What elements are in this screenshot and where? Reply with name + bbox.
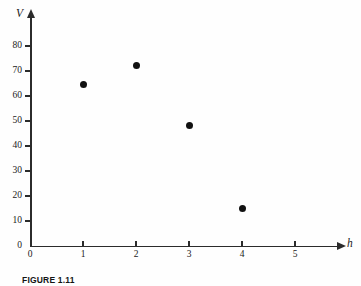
x-tick-mark (241, 241, 242, 247)
x-axis-label: h (347, 238, 353, 250)
scatter-plot: V h 01020304050607080 012345 (0, 0, 361, 270)
x-tick-label: 3 (181, 250, 197, 260)
y-tick-mark (25, 45, 31, 46)
x-tick-mark (82, 241, 83, 247)
y-tick-label: 0 (0, 241, 22, 251)
figure-caption: FIGURE 1.11 (22, 275, 75, 286)
y-axis-arrow-icon (27, 9, 35, 18)
data-point (239, 205, 246, 212)
data-point (133, 62, 140, 69)
x-tick-mark (294, 241, 295, 247)
x-tick-mark (135, 241, 136, 247)
data-point (80, 81, 87, 88)
y-tick-mark (25, 145, 31, 146)
y-tick-label: 50 (0, 116, 22, 126)
x-tick-label: 4 (234, 250, 250, 260)
figure-container: V h 01020304050607080 012345 FIGURE 1.11 (0, 0, 361, 286)
y-tick-label: 70 (0, 66, 22, 76)
y-tick-mark (25, 220, 31, 221)
x-tick-label: 0 (22, 250, 38, 260)
y-axis-label: V (16, 8, 23, 20)
y-tick-mark (25, 195, 31, 196)
y-tick-label: 40 (0, 141, 22, 151)
y-tick-mark (25, 170, 31, 171)
y-tick-label: 10 (0, 216, 22, 226)
y-tick-mark (25, 95, 31, 96)
y-tick-label: 80 (0, 41, 22, 51)
x-axis-arrow-icon (337, 242, 346, 250)
y-tick-mark (25, 70, 31, 71)
y-tick-label: 30 (0, 166, 22, 176)
y-tick-label: 60 (0, 91, 22, 101)
x-tick-label: 5 (287, 250, 303, 260)
x-tick-label: 1 (75, 250, 91, 260)
y-axis-line (30, 16, 32, 246)
y-tick-mark (25, 120, 31, 121)
x-tick-mark (188, 241, 189, 247)
y-tick-label: 20 (0, 191, 22, 201)
data-point (186, 122, 193, 129)
x-tick-label: 2 (128, 250, 144, 260)
